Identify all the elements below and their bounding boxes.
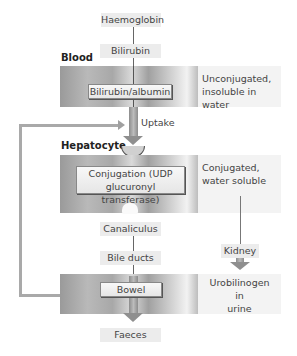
unconjugated-note: Unconjugated, insoluble in water — [198, 66, 281, 107]
urobilinogen-note: Urobilinogen in urine — [198, 274, 281, 314]
faeces-node: Faeces — [100, 328, 161, 342]
hepatocyte-section-title: Hepatocyte — [61, 140, 126, 151]
urobilinogen-line3: urine — [198, 302, 281, 315]
bilirubin-node: Bilirubin — [100, 44, 161, 58]
faeces-arrowhead-icon — [123, 313, 143, 322]
conjugation-line2: glucuronyl transferase) — [77, 180, 184, 206]
uptake-arrow-shaft — [129, 107, 138, 137]
unconjugated-line1: Unconjugated, — [202, 72, 281, 85]
conjugated-line1: Conjugated, — [202, 161, 281, 174]
recirculation-line-bottom — [19, 294, 61, 297]
bilirubin-albumin-node: Bilirubin/albumin — [88, 84, 172, 99]
recirculation-arrowhead-icon — [118, 120, 125, 130]
kidney-arrowhead-icon — [230, 262, 250, 270]
uptake-arrowhead-icon — [123, 136, 143, 145]
uptake-label: Uptake — [141, 117, 175, 128]
unconjugated-line2: insoluble in water — [202, 85, 281, 111]
conjugation-line1: Conjugation (UDP — [77, 167, 184, 180]
urobilinogen-line2: in — [198, 289, 281, 302]
bowel-node: Bowel — [100, 282, 162, 297]
haemoglobin-node: Haemoglobin — [101, 13, 161, 27]
blood-section-title: Blood — [61, 52, 93, 63]
recirculation-line-vertical — [19, 124, 22, 296]
bile-ducts-node: Bile ducts — [100, 251, 161, 265]
kidney-node: Kidney — [221, 244, 259, 258]
urobilinogen-line1: Urobilinogen — [198, 276, 281, 289]
recirculation-line-top — [19, 124, 119, 127]
conjugated-line2: water soluble — [202, 174, 281, 187]
canaliculus-node: Canaliculus — [100, 222, 161, 236]
conjugation-node: Conjugation (UDP glucuronyl transferase) — [76, 166, 185, 194]
